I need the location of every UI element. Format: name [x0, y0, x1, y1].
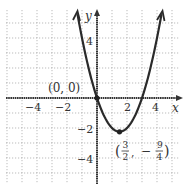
y-tick-label: −4: [77, 153, 93, 166]
svg-text:4: 4: [157, 152, 163, 162]
y-axis-label: y: [84, 9, 92, 23]
y-tick-label: 4: [86, 35, 93, 48]
svg-text:9: 9: [157, 140, 163, 150]
x-tick-label: 4: [152, 101, 159, 114]
x-axis-label: x: [172, 101, 179, 115]
parabola-curve: [78, 14, 162, 132]
svg-text:2: 2: [123, 152, 129, 162]
svg-text:3: 3: [123, 140, 129, 150]
y-axis-arrow-icon: [94, 9, 100, 16]
svg-text:,: ,: [131, 146, 135, 159]
vertex-annotation: ( 3 2 , − 9 4 ): [115, 140, 169, 162]
origin-point: [94, 95, 99, 100]
svg-text:(: (: [115, 143, 120, 159]
x-tick-label: 2: [124, 101, 131, 114]
curve-left-arrow-icon: [73, 11, 80, 21]
y-tick-label: −2: [77, 123, 93, 136]
svg-text:): ): [164, 143, 169, 159]
origin-annotation: (0, 0): [48, 81, 80, 95]
svg-text:−: −: [141, 144, 151, 158]
x-tick-label: −4: [25, 101, 41, 114]
parabola-graph: y x −4 −2 2 4 4 −2 −4 (0, 0) ( 3 2 , − 9…: [0, 0, 183, 195]
vertex-point: [117, 129, 122, 134]
x-tick-label: −2: [55, 101, 71, 114]
